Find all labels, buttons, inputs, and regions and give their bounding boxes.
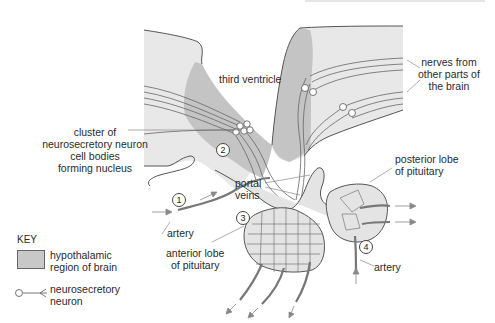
label-posterior-line2: of pituitary bbox=[395, 165, 459, 177]
posterior-lobe bbox=[326, 184, 387, 242]
label-posterior-line1: posterior lobe bbox=[395, 153, 459, 165]
key-label-hypothalamic: hypothalamic region of brain bbox=[50, 249, 117, 273]
marker-1: 1 bbox=[172, 193, 186, 207]
label-cluster-line2: neurosecretory neuron bbox=[40, 138, 150, 150]
label-nerves-line3: the brain bbox=[418, 80, 480, 92]
key-title: KEY bbox=[17, 234, 37, 245]
anterior-lobe bbox=[244, 208, 325, 272]
key-label-neuron-line1: neurosecretory bbox=[50, 283, 120, 295]
label-portal-line1: portal bbox=[235, 177, 261, 189]
label-portal-veins: portal veins bbox=[235, 177, 261, 201]
label-cluster-line4: forming nucleus bbox=[40, 162, 150, 174]
key-label-hypothalamic-line1: hypothalamic bbox=[50, 249, 117, 261]
label-artery-4: artery bbox=[374, 261, 401, 273]
label-artery-1: artery bbox=[167, 227, 194, 239]
label-nerves-line1: nerves from bbox=[418, 56, 480, 68]
marker-2: 2 bbox=[216, 143, 230, 157]
label-posterior-lobe: posterior lobe of pituitary bbox=[395, 153, 459, 177]
label-third-ventricle: third ventricle bbox=[219, 73, 281, 85]
label-nerves: nerves from other parts of the brain bbox=[418, 56, 480, 92]
marker-3: 3 bbox=[236, 211, 250, 225]
label-anterior-line1: anterior lobe bbox=[166, 247, 224, 259]
key-label-neuron-line2: neuron bbox=[50, 295, 120, 307]
label-anterior-line2: of pituitary bbox=[166, 259, 224, 271]
label-anterior-lobe: anterior lobe of pituitary bbox=[166, 247, 224, 271]
marker-4: 4 bbox=[359, 240, 373, 254]
hypothalamic-swatch bbox=[17, 250, 45, 269]
label-nerves-line2: other parts of bbox=[418, 68, 480, 80]
label-portal-line2: veins bbox=[235, 189, 261, 201]
key-label-hypothalamic-line2: region of brain bbox=[50, 261, 117, 273]
neuron-icon bbox=[16, 289, 48, 297]
label-cluster-line3: cell bodies bbox=[40, 150, 150, 162]
label-cluster-line1: cluster of bbox=[40, 126, 150, 138]
key-label-neuron: neurosecretory neuron bbox=[50, 283, 120, 307]
label-cluster: cluster of neurosecretory neuron cell bo… bbox=[40, 126, 150, 174]
